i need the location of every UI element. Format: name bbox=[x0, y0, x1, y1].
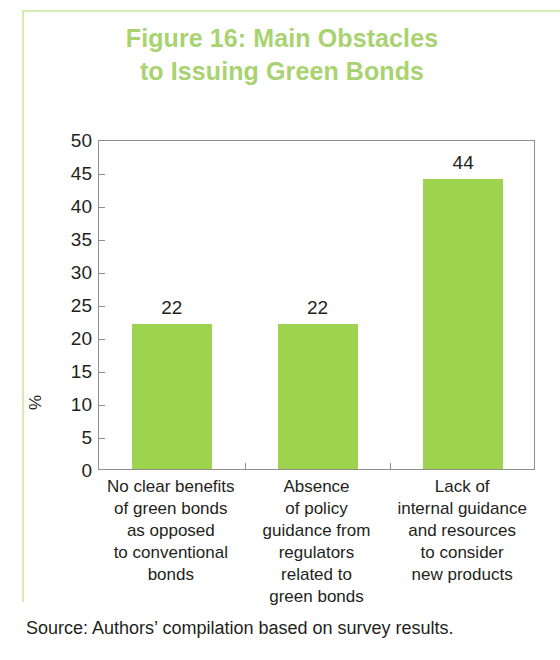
x-axis-category-line: new products bbox=[389, 564, 535, 586]
chart-title: Figure 16: Main Obstacles to Issuing Gre… bbox=[22, 22, 542, 88]
y-axis-tick-mark bbox=[99, 240, 105, 241]
y-axis-tick-labels: 50454035302520151050 bbox=[48, 140, 92, 470]
y-axis-tick-mark bbox=[99, 207, 105, 208]
x-axis-category-line: Lack of bbox=[389, 476, 535, 498]
y-axis-tick-label: 15 bbox=[48, 362, 92, 381]
x-axis-category-line: bonds bbox=[98, 564, 244, 586]
bar bbox=[132, 324, 212, 469]
x-axis-category-line: Absence bbox=[244, 476, 390, 498]
y-axis-tick-label: 5 bbox=[48, 428, 92, 447]
bar-value-label: 22 bbox=[161, 298, 182, 317]
y-axis-tick-mark bbox=[99, 339, 105, 340]
x-axis-category-line: to conventional bbox=[98, 542, 244, 564]
bar bbox=[423, 179, 503, 469]
y-axis-tick-mark bbox=[99, 174, 105, 175]
y-axis-tick-mark bbox=[99, 273, 105, 274]
y-axis-tick-label: 45 bbox=[48, 164, 92, 183]
source-note: Source: Authors’ compilation based on su… bbox=[26, 618, 454, 639]
y-axis-tick-label: 30 bbox=[48, 263, 92, 282]
x-axis-category-line: to consider bbox=[389, 542, 535, 564]
x-axis-category-line: green bonds bbox=[244, 586, 390, 608]
x-axis-category-line: of green bonds bbox=[98, 498, 244, 520]
x-axis-tick-mark bbox=[245, 463, 246, 469]
bar bbox=[278, 324, 358, 469]
x-axis-category-labels: No clear benefitsof green bondsas oppose… bbox=[98, 476, 535, 598]
x-axis-category-label: Lack ofinternal guidanceand resourcesto … bbox=[389, 476, 535, 586]
x-axis-category-line: as opposed bbox=[98, 520, 244, 542]
y-axis-tick-label: 0 bbox=[48, 461, 92, 480]
y-axis-tick-label: 35 bbox=[48, 230, 92, 249]
x-axis-tick-mark bbox=[390, 463, 391, 469]
y-axis-tick-mark bbox=[99, 405, 105, 406]
x-axis-category-line: guidance from bbox=[244, 520, 390, 542]
y-axis-tick-label: 20 bbox=[48, 329, 92, 348]
plot-area: 222244 bbox=[98, 140, 535, 470]
bar-value-label: 22 bbox=[307, 298, 328, 317]
x-axis-category-line: regulators bbox=[244, 542, 390, 564]
x-axis-category-line: internal guidance bbox=[389, 498, 535, 520]
y-axis-tick-label: 25 bbox=[48, 296, 92, 315]
x-axis-category-line: of policy bbox=[244, 498, 390, 520]
chart-title-line-2: to Issuing Green Bonds bbox=[22, 55, 542, 88]
x-axis-category-line: and resources bbox=[389, 520, 535, 542]
y-axis-tick-mark bbox=[99, 306, 105, 307]
y-axis-title: % bbox=[26, 395, 46, 410]
y-axis-tick-label: 40 bbox=[48, 197, 92, 216]
x-axis-category-label: Absenceof policyguidance fromregulatorsr… bbox=[244, 476, 390, 609]
y-axis-tick-label: 10 bbox=[48, 395, 92, 414]
x-axis-category-label: No clear benefitsof green bondsas oppose… bbox=[98, 476, 244, 586]
x-axis-category-line: No clear benefits bbox=[98, 476, 244, 498]
x-axis-category-line: related to bbox=[244, 564, 390, 586]
y-axis-tick-label: 50 bbox=[48, 131, 92, 150]
y-axis-tick-mark bbox=[99, 372, 105, 373]
chart-title-line-1: Figure 16: Main Obstacles bbox=[22, 22, 542, 55]
bar-chart: % 50454035302520151050 222244 No clear b… bbox=[0, 118, 560, 608]
y-axis-tick-mark bbox=[99, 438, 105, 439]
bar-value-label: 44 bbox=[453, 153, 474, 172]
